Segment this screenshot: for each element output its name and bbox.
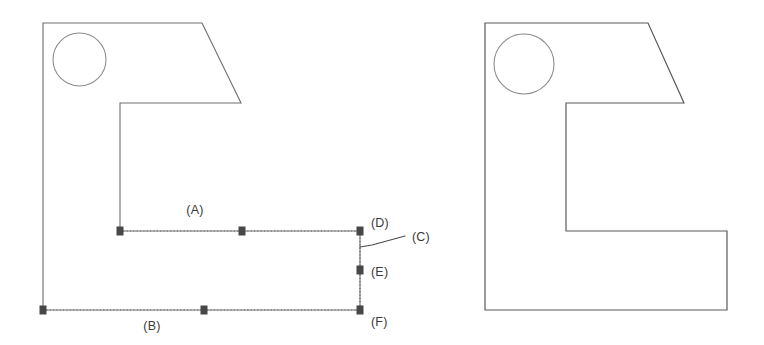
- label-b: (B): [143, 319, 160, 333]
- marker-d: [357, 227, 364, 236]
- left-part-outline: [43, 23, 360, 310]
- dimension-lines-group: [43, 231, 360, 310]
- marker-a-start: [117, 227, 124, 236]
- left-hole-circle-render: [53, 33, 106, 86]
- left-view-group: [43, 23, 360, 310]
- marker-b-start: [40, 306, 47, 315]
- marker-b-mid: [201, 306, 208, 315]
- right-view-group: [485, 23, 727, 310]
- marker-a-mid: [239, 227, 246, 236]
- marker-f: [357, 306, 364, 315]
- right-hole-circle: [494, 34, 554, 94]
- label-c: (C): [412, 230, 430, 244]
- label-d: (D): [371, 216, 389, 230]
- technical-drawing-figure: (A) (B) (C) (D) (E) (F): [0, 0, 764, 345]
- drawing-svg: (A) (B) (C) (D) (E) (F): [0, 0, 764, 345]
- callout-labels-group: (A) (B) (C) (D) (E) (F): [143, 203, 430, 333]
- marker-e: [357, 266, 364, 275]
- right-part-outline: [485, 23, 727, 310]
- node-markers-group: [40, 227, 364, 315]
- leader-line-c: [360, 236, 405, 247]
- label-f: (F): [371, 315, 388, 329]
- label-e: (E): [371, 265, 388, 279]
- label-a: (A): [186, 203, 203, 217]
